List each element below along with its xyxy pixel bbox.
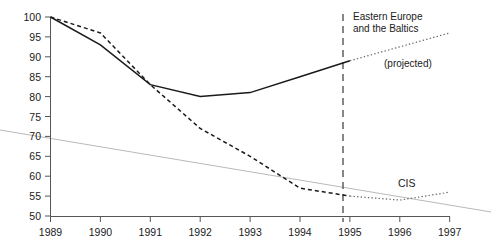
x-tick-label: 1994: [288, 226, 312, 238]
x-tick-label: 1997: [438, 226, 462, 238]
x-tick-marks: [51, 217, 450, 223]
series-cis-actual: [51, 17, 350, 196]
x-axis-labels: 1989 1990 1991 1992 1993 1994 1995 1996 …: [39, 226, 462, 238]
y-tick-label: 50: [29, 210, 41, 222]
y-tick-label: 60: [29, 170, 41, 182]
chart-figure: 100 95 90 85 80 75 70 65 60 55 50 1989: [0, 0, 491, 252]
x-tick-label: 1996: [388, 226, 412, 238]
y-tick-label: 80: [29, 91, 41, 103]
series-cis-projected: [350, 192, 450, 200]
y-axis-labels: 100 95 90 85 80 75 70 65 60 55 50: [23, 11, 41, 222]
series-eastern-europe-projected: [350, 33, 450, 61]
x-tick-label: 1995: [338, 226, 362, 238]
x-tick-label: 1989: [39, 226, 63, 238]
x-tick-label: 1993: [238, 226, 262, 238]
y-tick-label: 75: [29, 111, 41, 123]
y-tick-label: 100: [23, 11, 41, 23]
y-tick-label: 85: [29, 71, 41, 83]
y-tick-label: 90: [29, 51, 41, 63]
y-tick-marks: [45, 17, 51, 216]
eastern-europe-annotation-line2: and the Baltics: [353, 23, 419, 34]
y-tick-label: 55: [29, 190, 41, 202]
projected-annotation: (projected): [384, 58, 432, 69]
line-chart-canvas: 100 95 90 85 80 75 70 65 60 55 50 1989: [0, 0, 491, 252]
y-tick-label: 70: [29, 130, 41, 142]
series-eastern-europe-actual: [51, 17, 350, 97]
y-tick-label: 65: [29, 150, 41, 162]
cis-annotation: CIS: [398, 177, 416, 189]
x-tick-label: 1992: [189, 226, 213, 238]
scan-artifact-line: [0, 130, 491, 212]
x-tick-label: 1991: [139, 226, 163, 238]
y-tick-label: 95: [29, 31, 41, 43]
x-tick-label: 1990: [89, 226, 113, 238]
eastern-europe-annotation-line1: Eastern Europe: [353, 11, 423, 22]
